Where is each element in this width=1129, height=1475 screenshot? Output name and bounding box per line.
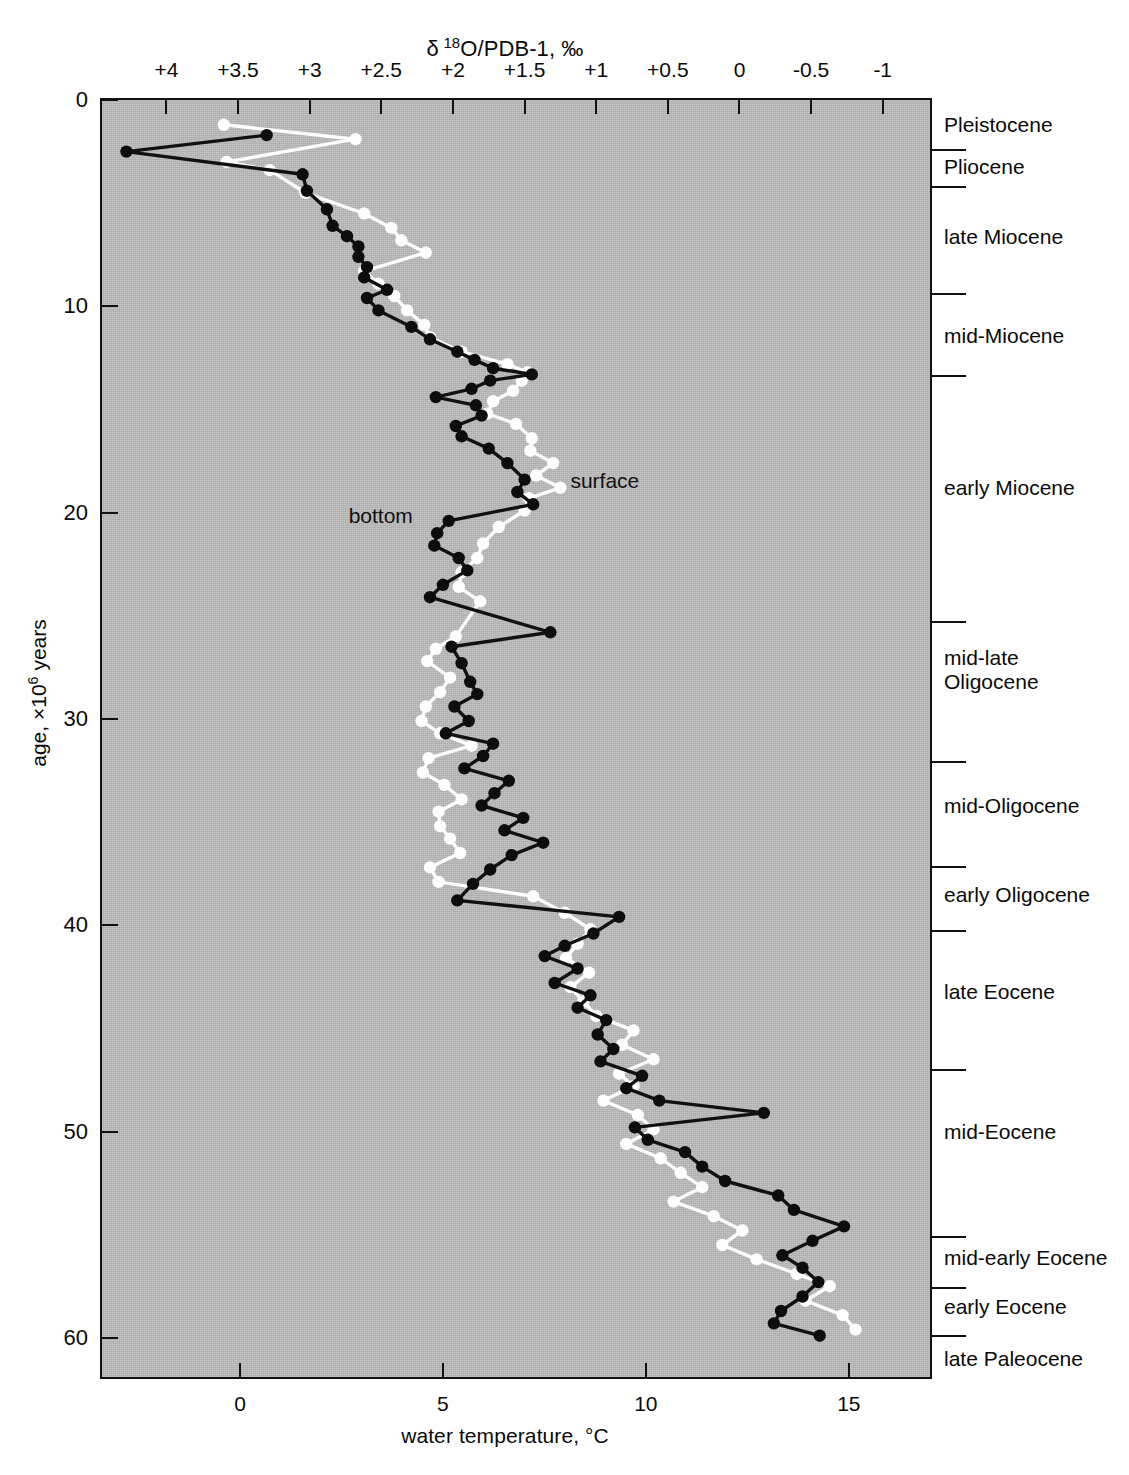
age-axis-tick-label: 30: [28, 706, 88, 732]
data-point-bottom: [461, 564, 473, 576]
data-point-surface: [493, 521, 505, 533]
epoch-label: mid-early Eocene: [944, 1246, 1107, 1270]
epoch-boundary-tick: [932, 761, 966, 763]
age-axis-tick: [102, 718, 118, 720]
bottom-axis-tick: [645, 1363, 647, 1377]
top-axis-tick-label: +3.5: [217, 58, 258, 82]
top-axis-tick-label: 0: [734, 58, 746, 82]
bottom-axis-tick: [239, 1363, 241, 1377]
age-axis-tick: [102, 1131, 118, 1133]
data-point-bottom: [431, 527, 443, 539]
data-point-surface: [655, 1152, 667, 1164]
data-point-bottom: [539, 950, 551, 962]
data-point-bottom: [788, 1204, 800, 1216]
data-point-bottom: [584, 989, 596, 1001]
top-axis-tick: [524, 100, 526, 114]
data-point-bottom: [506, 849, 518, 861]
data-point-surface: [401, 304, 413, 316]
top-axis-tick-label: +1.5: [504, 58, 545, 82]
top-axis-tick: [452, 100, 454, 114]
data-point-surface: [474, 595, 486, 607]
data-point-surface: [487, 395, 499, 407]
data-point-bottom: [679, 1146, 691, 1158]
epoch-label: mid-Oligocene: [944, 794, 1079, 818]
data-point-surface: [417, 766, 429, 778]
epoch-label: late Paleocene: [944, 1347, 1083, 1371]
data-point-surface: [620, 1138, 632, 1150]
data-point-bottom: [587, 927, 599, 939]
data-point-surface: [583, 967, 595, 979]
epoch-label-line: mid-late: [944, 646, 1039, 670]
data-point-bottom: [477, 750, 489, 762]
data-point-bottom: [361, 292, 373, 304]
data-point-surface: [420, 700, 432, 712]
series-annotation-bottom: bottom: [349, 504, 413, 528]
data-point-bottom: [326, 220, 338, 232]
data-point-surface: [849, 1323, 861, 1335]
data-point-surface: [444, 671, 456, 683]
data-point-bottom: [475, 799, 487, 811]
data-point-bottom: [465, 383, 477, 395]
data-point-bottom: [511, 486, 523, 498]
epoch-label-line: late Paleocene: [944, 1347, 1083, 1371]
data-point-bottom: [437, 579, 449, 591]
data-point-surface: [510, 418, 522, 430]
top-axis-tick: [595, 100, 597, 114]
data-point-bottom: [503, 775, 515, 787]
epoch-boundary-tick: [932, 375, 966, 377]
y-axis-exponent: 6: [25, 676, 41, 684]
data-point-surface: [455, 793, 467, 805]
data-point-bottom: [642, 1134, 654, 1146]
data-point-surface: [438, 779, 450, 791]
data-point-bottom: [592, 1028, 604, 1040]
series-line-surface: [224, 125, 856, 1330]
data-point-bottom: [440, 727, 452, 739]
data-point-bottom: [455, 430, 467, 442]
data-point-surface: [716, 1239, 728, 1251]
data-point-bottom: [321, 203, 333, 215]
data-point-bottom: [463, 715, 475, 727]
data-point-bottom: [796, 1290, 808, 1302]
epoch-boundary-tick: [932, 621, 966, 623]
series-line-bottom: [126, 135, 844, 1336]
isotope-mass-number: 18: [443, 34, 460, 51]
epoch-label: late Miocene: [944, 225, 1063, 249]
epoch-label-line: late Eocene: [944, 980, 1055, 1004]
epoch-label-line: early Miocene: [944, 476, 1075, 500]
data-point-surface: [597, 1094, 609, 1106]
data-point-surface: [218, 119, 230, 131]
top-axis-tick-label: +3: [298, 58, 322, 82]
epoch-boundary-tick: [932, 1335, 966, 1337]
data-point-bottom: [301, 185, 313, 197]
data-point-surface: [554, 482, 566, 494]
epoch-label-line: Oligocene: [944, 670, 1039, 694]
y-axis-title-units: years: [27, 619, 50, 676]
bottom-axis-tick: [848, 1363, 850, 1377]
top-axis-tick: [165, 100, 167, 114]
data-point-surface: [358, 207, 370, 219]
data-point-bottom: [484, 863, 496, 875]
epoch-boundary-tick: [932, 1236, 966, 1238]
data-point-surface: [430, 643, 442, 655]
bottom-axis-tick: [442, 1363, 444, 1377]
plot-area: surfacebottom: [100, 98, 932, 1379]
epoch-label-line: late Miocene: [944, 225, 1063, 249]
data-point-surface: [526, 432, 538, 444]
data-point-surface: [477, 537, 489, 549]
data-point-surface: [420, 247, 432, 259]
data-point-surface: [434, 820, 446, 832]
top-axis-tick-label: -1: [873, 58, 892, 82]
y-axis-title: age, ×106 years: [25, 593, 51, 793]
data-point-bottom: [458, 762, 470, 774]
data-point-surface: [627, 1024, 639, 1036]
age-axis-tick-label: 60: [28, 1325, 88, 1351]
age-axis-tick: [102, 512, 118, 514]
top-axis-tick: [667, 100, 669, 114]
age-axis-tick-label: 50: [28, 1119, 88, 1145]
data-point-bottom: [549, 977, 561, 989]
epoch-label: mid-Miocene: [944, 324, 1064, 348]
epoch-label: early Oligocene: [944, 883, 1090, 907]
data-point-bottom: [838, 1220, 850, 1232]
data-point-surface: [530, 469, 542, 481]
top-axis-tick-label: +2: [441, 58, 465, 82]
